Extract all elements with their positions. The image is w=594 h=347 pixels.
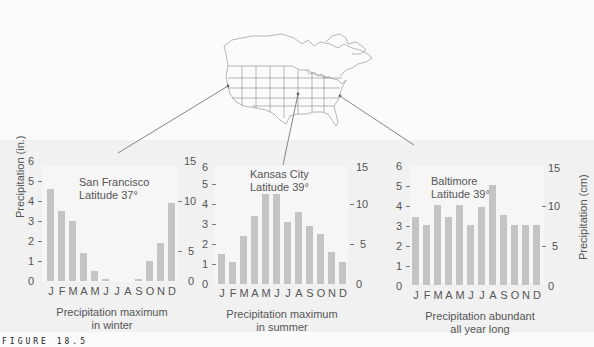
bar-aug [295, 212, 302, 284]
bar-mar [434, 205, 441, 285]
bar-jun [467, 225, 474, 285]
bar-may [456, 205, 463, 285]
bar-series [410, 166, 544, 285]
bar-nov [157, 243, 164, 281]
tick-5: 5 [20, 175, 34, 187]
bar-jun [102, 279, 109, 281]
tick-1: 1 [20, 255, 34, 267]
bar-series [45, 161, 177, 281]
bar-dec [339, 262, 346, 284]
bar-mar [69, 221, 76, 281]
figure-label: FIGURE 18.5 [2, 337, 88, 346]
bar-jul [284, 222, 291, 284]
bar-jan [218, 254, 225, 284]
bar-apr [251, 216, 258, 284]
bar-jan [412, 217, 419, 285]
panel-caption: Precipitation maximum in winter [52, 306, 172, 332]
bar-mar [240, 236, 247, 284]
bar-may [262, 194, 269, 284]
bar-dec [533, 225, 540, 285]
bar-sep [500, 215, 507, 285]
right-axis-label: Precipitation (cm) [577, 174, 589, 260]
bar-feb [58, 211, 65, 281]
bar-sep [306, 226, 313, 284]
bar-nov [328, 252, 335, 284]
bar-nov [522, 225, 529, 285]
bar-oct [317, 234, 324, 284]
bar-feb [229, 262, 236, 284]
bar-sep [135, 279, 142, 281]
bar-dec [168, 203, 175, 281]
bar-oct [511, 225, 518, 285]
bar-jun [273, 194, 280, 284]
panel-caption: Precipitation maximum in summer [222, 308, 342, 334]
bar-jul [478, 207, 485, 285]
bar-apr [80, 253, 87, 281]
tick-6: 6 [20, 155, 34, 167]
bar-aug [489, 185, 496, 285]
tick-0: 0 [20, 275, 34, 287]
bar-jan [47, 189, 54, 281]
bar-series [216, 164, 350, 284]
north-america-map [222, 14, 382, 132]
tick-2: 2 [20, 235, 34, 247]
tick-3: 3 [20, 215, 34, 227]
panel-caption: Precipitation abundant all year long [415, 310, 545, 336]
bar-feb [423, 225, 430, 285]
bar-oct [146, 261, 153, 281]
bar-may [91, 271, 98, 281]
tick-4: 4 [20, 195, 34, 207]
bar-apr [445, 217, 452, 285]
